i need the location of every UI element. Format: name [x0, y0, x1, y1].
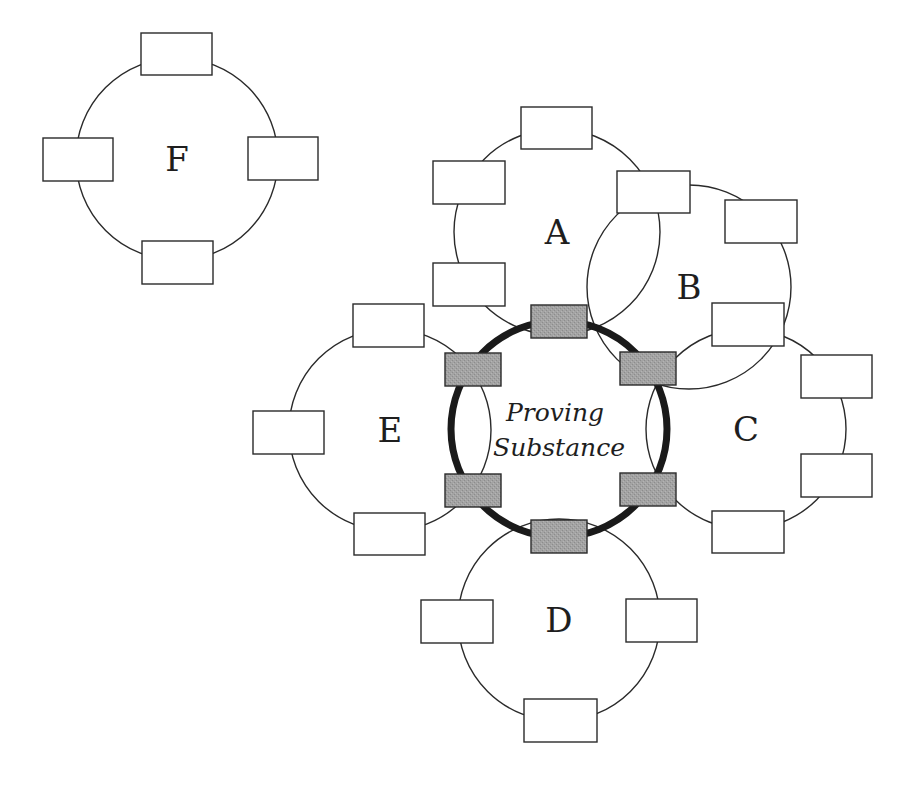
cluster-a-box[interactable] [521, 107, 592, 149]
core-port-lower-left[interactable] [445, 474, 501, 507]
cluster-c-box[interactable] [801, 454, 872, 497]
core-port-lower-right[interactable] [620, 473, 676, 506]
cluster-label-d: D [545, 600, 572, 640]
cluster-diagram: FABCDE Proving Substance [0, 0, 913, 786]
cluster-d-box[interactable] [626, 599, 697, 642]
cluster-e-box[interactable] [354, 513, 425, 555]
cluster-c-box[interactable] [801, 355, 872, 398]
cluster-label-a: A [544, 212, 570, 252]
core-port-bottom[interactable] [531, 520, 587, 553]
cluster-e-box[interactable] [353, 304, 424, 347]
cluster-label-c: C [733, 409, 759, 449]
cluster-d-box[interactable] [421, 600, 493, 643]
cluster-f-box[interactable] [43, 138, 113, 181]
cluster-label-f: F [165, 139, 189, 179]
core-label-line1: Proving [505, 398, 604, 427]
cluster-f-box[interactable] [141, 33, 212, 75]
cluster-a-box[interactable] [433, 263, 505, 306]
cluster-f-box[interactable] [142, 241, 213, 284]
cluster-b-box[interactable] [725, 200, 797, 243]
cluster-label-e: E [378, 410, 403, 450]
core-label-line2: Substance [493, 433, 625, 462]
cluster-b-box[interactable] [712, 303, 784, 346]
cluster-f-box[interactable] [248, 137, 318, 180]
core-ports [445, 305, 676, 553]
cluster-d-box[interactable] [524, 699, 597, 742]
cluster-b-box[interactable] [617, 171, 690, 213]
core-port-top[interactable] [531, 305, 587, 338]
core-port-upper-left[interactable] [445, 353, 501, 386]
core-label: Proving Substance [493, 398, 625, 462]
cluster-c-box[interactable] [712, 511, 784, 553]
cluster-a-box[interactable] [433, 161, 505, 204]
cluster-e-box[interactable] [253, 411, 324, 454]
core-port-upper-right[interactable] [620, 352, 676, 385]
cluster-label-b: B [677, 267, 702, 307]
